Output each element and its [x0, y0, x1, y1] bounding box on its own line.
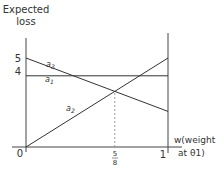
expected-loss-chart: Expected loss 5 4 0 5 8 1 w(weight at θ1…: [0, 0, 224, 180]
x-tick-0: 0: [17, 148, 23, 159]
y-axis-label-line2: loss: [16, 16, 35, 27]
y-tick-5: 5: [15, 53, 21, 64]
x-tick-5-8-numerator: 5: [113, 150, 117, 158]
y-tick-4: 4: [15, 66, 21, 77]
y-axis-label-line1: Expected: [3, 4, 50, 15]
x-axis-label-line1: w(weight: [174, 135, 216, 145]
x-axis-label-line2: at θ1): [178, 148, 205, 158]
series-a1-label: a1: [45, 75, 54, 85]
series-a2-label: a2: [66, 104, 75, 114]
series-a2-line: [26, 58, 168, 147]
series-a3-label: a3: [46, 60, 55, 70]
x-tick-5-8-denominator: 8: [113, 159, 117, 167]
x-tick-1: 1: [160, 149, 166, 160]
